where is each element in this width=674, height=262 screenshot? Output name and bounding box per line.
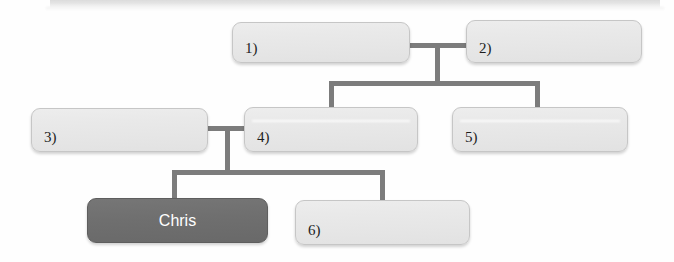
tree-node-6[interactable]: 6) (295, 200, 470, 245)
tree-node-2-label: 2) (479, 41, 492, 56)
tree-node-6-label: 6) (308, 223, 321, 238)
family-tree-diagram: 1) 2) 3) 4) 5) Chris 6) (0, 0, 674, 262)
tree-node-1-label: 1) (245, 41, 258, 56)
connector-sibling-bar-upper (329, 81, 540, 86)
connector-drop-to-node5 (535, 81, 540, 109)
tree-node-1[interactable]: 1) (232, 22, 410, 63)
tree-node-5[interactable]: 5) (452, 107, 628, 152)
tree-node-4[interactable]: 4) (244, 107, 418, 152)
tree-node-chris-label: Chris (88, 212, 267, 228)
connector-drop-to-chris (172, 170, 177, 200)
tree-node-3-label: 3) (44, 130, 57, 145)
tree-node-2[interactable]: 2) (466, 20, 642, 63)
tree-node-3[interactable]: 3) (31, 108, 208, 152)
connector-drop-to-node4 (329, 81, 334, 109)
connector-drop-top (435, 43, 440, 85)
scan-artifact-edge (46, 7, 664, 10)
tree-node-4-label: 4) (257, 130, 270, 145)
tree-node-chris[interactable]: Chris (87, 198, 268, 243)
connector-sibling-bar-lower (172, 170, 385, 175)
connector-drop-to-node6 (380, 170, 385, 202)
tree-node-5-label: 5) (465, 130, 478, 145)
connector-drop-middle (225, 126, 230, 172)
